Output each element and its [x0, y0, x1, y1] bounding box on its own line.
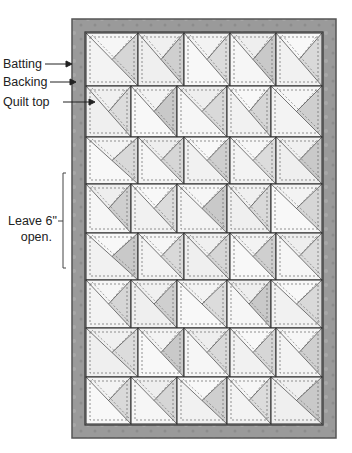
quilt-block	[227, 280, 271, 328]
quilt-block	[230, 328, 276, 377]
backing-label: Backing	[3, 75, 47, 89]
quilt-block	[177, 86, 227, 137]
quilt-block	[276, 328, 322, 377]
quilt-block	[184, 137, 230, 184]
quilt-block	[131, 184, 177, 233]
quilt-block	[131, 377, 177, 424]
quilt-block	[271, 86, 322, 137]
leave-open-bracket	[58, 173, 66, 268]
quilt-block	[138, 33, 184, 86]
quilt-block	[86, 137, 138, 184]
quilt-top-label: Quilt top	[3, 95, 50, 109]
quilt-block	[276, 137, 322, 184]
quilt-block	[86, 184, 131, 233]
quilt-top-blocks	[86, 33, 322, 424]
quilt-block	[271, 377, 322, 424]
leave-open-label-line1: Leave 6"	[8, 214, 56, 228]
quilt-block	[271, 184, 322, 233]
quilt-block	[230, 137, 276, 184]
quilt-block	[86, 33, 138, 86]
quilt-block	[131, 86, 177, 137]
quilt-block	[86, 86, 131, 137]
quilt-block	[131, 280, 177, 328]
quilt-block	[86, 328, 138, 377]
quilt-block	[230, 233, 276, 280]
quilt-block	[138, 137, 184, 184]
quilt-block	[177, 280, 227, 328]
leave-open-label-line2: open.	[8, 230, 52, 244]
quilt-block	[230, 33, 276, 86]
quilt-block	[184, 328, 230, 377]
quilt-block	[227, 184, 271, 233]
quilt-block	[177, 184, 227, 233]
quilt-block	[86, 280, 131, 328]
batting-arrow-head	[66, 61, 72, 67]
quilt-block	[86, 377, 131, 424]
quilt-block	[184, 33, 230, 86]
quilt-block	[227, 377, 271, 424]
quilt-block	[184, 233, 230, 280]
quilt-block	[138, 233, 184, 280]
batting-label: Batting	[3, 57, 42, 71]
quilt-block	[227, 86, 271, 137]
quilt-block	[138, 328, 184, 377]
quilt-block	[177, 377, 227, 424]
quilt-block	[276, 233, 322, 280]
quilt-block	[86, 233, 138, 280]
quilt-block	[276, 33, 322, 86]
quilt-block	[271, 280, 322, 328]
